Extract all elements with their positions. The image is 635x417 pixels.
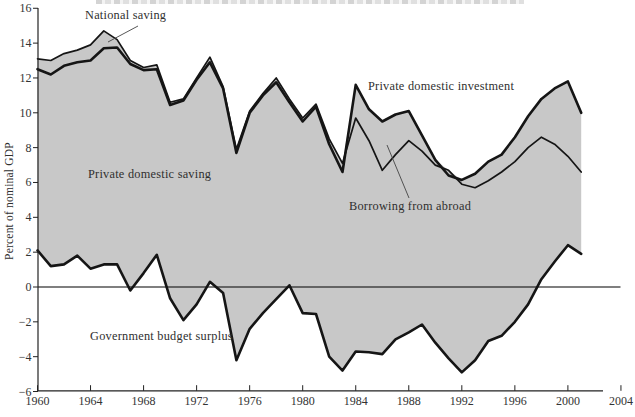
cropped-title-remnant	[96, 0, 524, 4]
label-government-budget-surplus: Government budget surplus	[90, 329, 233, 344]
y-tick-label: 4	[26, 210, 32, 224]
y-tick-label: 10	[20, 106, 32, 120]
y-tick-label: 8	[26, 141, 32, 155]
national-saving-pointer-line	[108, 26, 138, 42]
x-tick-label-1960: 1960	[26, 394, 50, 408]
x-tick-label-1984: 1984	[344, 394, 368, 408]
label-private-domestic-saving: Private domestic saving	[88, 167, 211, 182]
label-borrowing-from-abroad: Borrowing from abroad	[349, 199, 471, 214]
x-tick-label-2004: 2004	[609, 394, 633, 408]
y-tick-label: 16	[20, 1, 32, 15]
x-tick-label-2000: 2000	[556, 394, 580, 408]
x-tick-label-1988: 1988	[397, 394, 421, 408]
saving-investment-chart: 1614121086420−2−4−6196019641968197219761…	[0, 0, 635, 417]
x-tick-label-1964: 1964	[79, 394, 103, 408]
y-tick-label: 12	[20, 71, 32, 85]
x-tick-label-1968: 1968	[132, 394, 156, 408]
label-private-domestic-investment: Private domestic investment	[368, 79, 514, 94]
x-tick-label-1996: 1996	[503, 394, 527, 408]
label-national-saving: National saving	[85, 8, 166, 23]
y-tick-label: 6	[26, 175, 32, 189]
chart-canvas: 1614121086420−2−4−6196019641968197219761…	[0, 0, 635, 417]
x-tick-label-1992: 1992	[450, 394, 474, 408]
y-tick-label: 0	[26, 280, 32, 294]
y-tick-label: −4	[19, 350, 32, 364]
x-tick-label-1980: 1980	[291, 394, 315, 408]
x-tick-label-1972: 1972	[185, 394, 209, 408]
y-tick-label: 2	[26, 245, 32, 259]
x-tick-label-1976: 1976	[238, 394, 262, 408]
y-tick-label: −2	[19, 315, 32, 329]
y-tick-label: 14	[20, 36, 32, 50]
y-axis-title: Percent of nominal GDP	[3, 111, 17, 291]
